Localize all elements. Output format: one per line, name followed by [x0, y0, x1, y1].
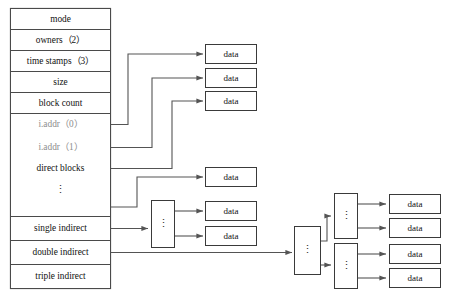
data-block: data — [390, 245, 441, 264]
data-block: data — [206, 168, 257, 187]
data-block: data — [390, 219, 441, 238]
data-block-label: data — [408, 199, 423, 209]
indirect-block-ellipsis: ⋮ — [158, 217, 169, 229]
data-block-label: data — [224, 49, 239, 59]
inode-row-triple-indirect: triple indirect — [11, 265, 111, 289]
indirect-block-ellipsis: ⋮ — [341, 259, 352, 271]
inode-row-label: i.addr（0） — [38, 119, 82, 129]
inode-row-label: i.addr（1） — [38, 142, 82, 152]
double-indirect-child-lower: ⋮ — [335, 244, 358, 289]
indirect-block-ellipsis: ⋮ — [341, 209, 352, 221]
data-block-group-direct: data data data data — [206, 45, 257, 187]
inode-row-single-indirect: single indirect — [11, 217, 111, 241]
data-block-label: data — [224, 73, 239, 83]
data-block-label: data — [408, 273, 423, 283]
inode-row-label: size — [53, 77, 67, 87]
inode-row-label: mode — [50, 14, 71, 24]
inode-vertical-ellipsis: ⋮ — [55, 183, 66, 195]
data-block-label: data — [224, 231, 239, 241]
inode-row-label: block count — [39, 98, 83, 108]
data-block: data — [390, 269, 441, 288]
data-block: data — [206, 202, 257, 221]
inode-row-owners: owners（2） — [11, 30, 111, 51]
data-block-label: data — [224, 172, 239, 182]
inode-row-block-count: block count — [11, 93, 111, 114]
data-block: data — [206, 69, 257, 88]
inode-row-label: double indirect — [32, 247, 88, 257]
inode-table: mode owners（2） time stamps（3） size block… — [11, 9, 111, 289]
data-block-label: data — [224, 96, 239, 106]
connector-direct-blocks — [111, 101, 204, 169]
data-block: data — [390, 195, 441, 214]
double-indirect-block: ⋮ — [295, 227, 321, 275]
inode-row-label: time stamps（3） — [27, 56, 94, 66]
connector-iaddr1 — [111, 78, 204, 148]
connector-iaddr0 — [111, 54, 204, 125]
inode-row-time-stamps: time stamps（3） — [11, 51, 111, 72]
inode-structure-diagram: mode owners（2） time stamps（3） size block… — [0, 0, 449, 296]
data-block-label: data — [224, 206, 239, 216]
data-block: data — [206, 92, 257, 111]
data-block: data — [206, 45, 257, 64]
inode-diagram-canvas: mode owners（2） time stamps（3） size block… — [0, 0, 449, 296]
data-block: data — [206, 227, 257, 246]
inode-row-label: direct blocks — [37, 163, 85, 173]
data-block-group-single-indirect: data data — [206, 202, 257, 246]
inode-row-size: size — [11, 72, 111, 93]
data-block-label: data — [408, 223, 423, 233]
inode-row-mode: mode — [11, 9, 111, 30]
indirect-block-ellipsis: ⋮ — [302, 243, 313, 255]
data-block-label: data — [408, 249, 423, 259]
inode-row-label: owners（2） — [36, 35, 86, 45]
connector-double-to-upper — [321, 216, 332, 241]
inode-row-double-indirect: double indirect — [11, 241, 111, 265]
inode-row-label: single indirect — [34, 223, 87, 233]
inode-row-label: triple indirect — [35, 271, 86, 281]
double-indirect-child-upper: ⋮ — [335, 194, 358, 239]
single-indirect-block: ⋮ — [152, 201, 175, 248]
connector-group-direct — [111, 54, 204, 207]
data-block-group-double-indirect: data data data data — [390, 195, 441, 288]
inode-direct-block-group: i.addr（0） i.addr（1） direct blocks ⋮ — [11, 114, 111, 217]
